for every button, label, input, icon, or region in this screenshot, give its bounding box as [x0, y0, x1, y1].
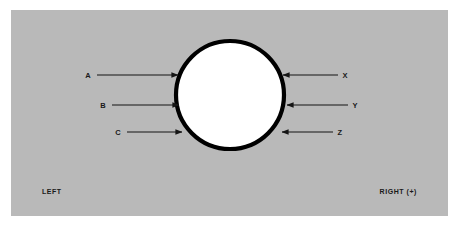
force-label-a: A — [85, 71, 91, 80]
force-label-c: C — [115, 128, 121, 137]
force-label-x: X — [342, 71, 347, 80]
force-vector-b: B — [100, 101, 179, 110]
right-force-group: X Y Z — [282, 71, 358, 137]
left-force-group: A B C — [85, 71, 182, 137]
force-vector-c: C — [115, 128, 182, 137]
right-direction-label: RIGHT (+) — [380, 188, 417, 196]
force-vector-z: Z — [282, 128, 343, 137]
free-body-diagram-figure: A B C X Y Z — [0, 0, 462, 227]
diagram-canvas: A B C X Y Z — [0, 0, 462, 227]
body-circle — [176, 41, 284, 149]
force-vector-y: Y — [287, 101, 358, 110]
force-vector-a: A — [85, 71, 178, 80]
force-label-y: Y — [352, 101, 357, 110]
force-label-b: B — [100, 101, 106, 110]
force-label-z: Z — [338, 128, 343, 137]
force-vector-x: X — [283, 71, 348, 80]
left-direction-label: LEFT — [42, 188, 62, 195]
